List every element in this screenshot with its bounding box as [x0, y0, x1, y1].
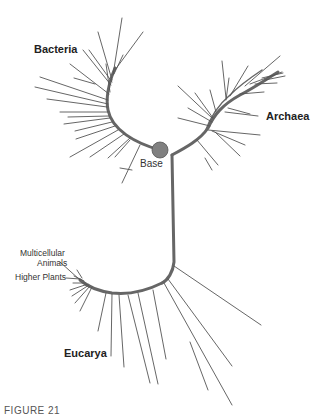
archaea-label: Archaea: [266, 111, 309, 122]
higher-plants-label: Higher Plants: [15, 273, 66, 282]
bacteria-label: Bacteria: [34, 44, 77, 55]
phylogenetic-tree: [0, 0, 323, 415]
animals-label-line2: Animals: [37, 259, 67, 268]
trunk-branches: [80, 68, 278, 293]
multicellular-label-line1: Multicellular: [20, 249, 65, 258]
base-node: [152, 142, 168, 158]
figure-caption: FIGURE 21: [4, 406, 60, 415]
base-label: Base: [140, 159, 163, 169]
eucarya-label: Eucarya: [64, 348, 107, 359]
